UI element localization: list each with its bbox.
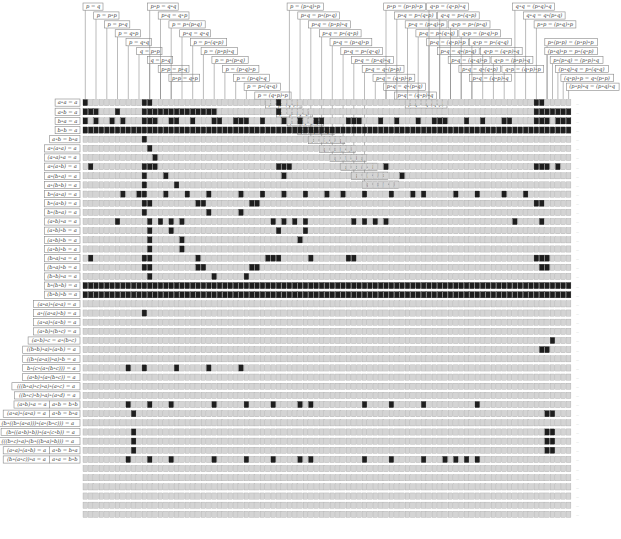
cell-empty [523,173,528,179]
cell-empty [421,173,426,179]
cell-empty [255,301,260,307]
cell-empty [352,109,357,115]
cell-empty [437,164,442,170]
cell-empty [486,447,491,453]
cell-empty [185,392,190,398]
cell-empty [346,347,351,353]
cell-empty [421,365,426,371]
cell-empty [529,237,534,243]
cell-empty [164,310,169,316]
cell-empty [147,347,152,353]
cell-empty [421,411,426,417]
cell-empty [287,310,292,316]
cell-satisfied [550,447,555,453]
cell-empty [174,173,179,179]
cell-empty [341,511,346,517]
cell-satisfied [142,136,147,142]
cell-empty [330,246,335,252]
cell-empty [303,383,308,389]
cell-empty [228,411,233,417]
cell-empty [142,237,147,243]
cell-empty [448,475,453,481]
cell-empty [228,429,233,435]
cell-satisfied [249,292,254,298]
cell-empty [411,429,416,435]
cell-empty [83,511,88,517]
cell-satisfied [545,411,550,417]
cell-empty [99,420,104,426]
cell-empty [346,100,351,106]
cell-empty [529,273,534,279]
row-label-text: a∘(b∘b) = a [47,182,77,188]
cell-empty [496,182,501,188]
cell-empty [539,456,544,462]
cell-empty [207,200,212,206]
cell-empty [480,145,485,151]
cell-empty [292,466,297,472]
cell-satisfied [550,292,555,298]
cell-satisfied [373,292,378,298]
cell-empty [217,246,222,252]
cell-empty [421,273,426,279]
cell-empty [131,264,136,270]
cell-empty [421,228,426,234]
cell-empty [335,273,340,279]
cell-empty [319,264,324,270]
cell-empty [491,182,496,188]
cell-empty [529,374,534,380]
cell-empty [534,136,539,142]
cell-empty [459,237,464,243]
cell-empty [523,411,528,417]
cell-empty [378,319,383,325]
cell-empty [378,374,383,380]
cell-empty [437,484,442,490]
cell-empty [368,182,373,188]
cell-empty [405,475,410,481]
cell-empty [104,365,109,371]
cell-empty [550,493,555,499]
cell-empty [448,511,453,517]
cell-satisfied [180,109,185,115]
cell-empty [292,100,297,106]
cell-empty [491,100,496,106]
cell-empty [368,466,373,472]
cell-empty [427,154,432,160]
cell-empty [239,319,244,325]
cell-empty [325,310,330,316]
cell-satisfied [298,401,303,407]
cell-empty [373,429,378,435]
cell-empty [83,145,88,151]
cell-empty [432,484,437,490]
cell-empty [491,228,496,234]
cell-empty [346,191,351,197]
cell-empty [142,502,147,508]
cell-empty [99,173,104,179]
cell-empty [459,511,464,517]
cell-empty [470,438,475,444]
cell-empty [325,392,330,398]
cell-empty [496,429,501,435]
cell-empty [539,447,544,453]
cell-empty [217,337,222,343]
cell-empty [389,511,394,517]
cell-empty [180,392,185,398]
cell-empty [158,246,163,252]
cell-empty [464,273,469,279]
cell-empty [298,374,303,380]
cell-empty [566,255,571,261]
cell-empty [126,264,131,270]
cell-empty [185,493,190,499]
cell-empty [201,164,206,170]
cell-satisfied [346,255,351,261]
cell-empty [346,246,351,252]
cell-empty [405,429,410,435]
cell-empty [416,411,421,417]
cell-empty [185,447,190,453]
cell-empty [346,411,351,417]
cell-empty [276,411,281,417]
row-tick: — [576,422,579,426]
cell-empty [319,475,324,481]
cell-empty [470,246,475,252]
cell-empty [88,511,93,517]
cell-empty [405,511,410,517]
